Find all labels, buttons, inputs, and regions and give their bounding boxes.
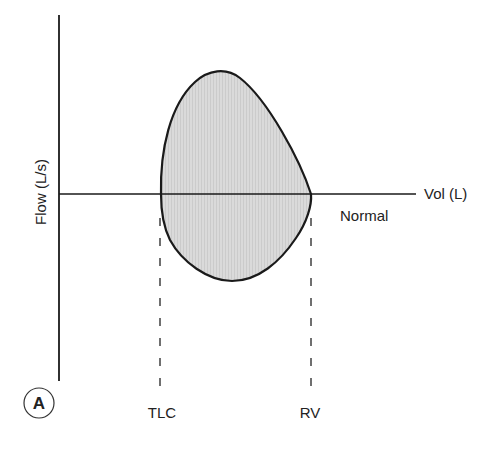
panel-label-text: A [33, 394, 45, 413]
x-axis-label: Vol (L) [424, 185, 467, 202]
flow-volume-loop [161, 71, 311, 281]
tlc-label: TLC [148, 404, 177, 421]
rv-label: RV [300, 404, 321, 421]
flow-volume-loop-figure: Flow (L/s) Vol (L) Normal TLC RV A [0, 0, 491, 452]
curve-label: Normal [340, 207, 388, 224]
y-axis-label: Flow (L/s) [32, 159, 49, 225]
panel-label: A [24, 388, 54, 418]
